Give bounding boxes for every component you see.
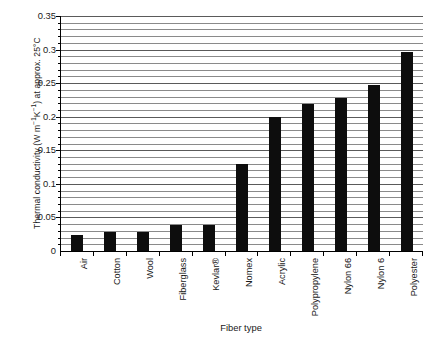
y-tick-mark-major [56,184,61,185]
y-tick-mark-minor [58,177,61,178]
bar [335,98,347,251]
x-category-label: Fiberglass [179,258,188,300]
y-tick-label: 0.35 [26,11,56,20]
y-tick-mark-minor [58,103,61,104]
y-tick-mark-minor [58,36,61,37]
x-tick-mark [290,251,291,256]
bar [203,225,215,251]
x-category-label: Nylon 66 [344,258,353,294]
x-tick-mark [225,251,226,256]
y-tick-mark-minor [58,90,61,91]
y-tick-mark-minor [58,76,61,77]
y-tick-mark-minor [58,110,61,111]
bar [104,232,116,251]
y-tick-mark-minor [58,231,61,232]
x-category-label: Nomex [245,258,254,287]
x-tick-mark [257,251,258,256]
y-tick-mark-minor [58,164,61,165]
x-tick-mark [192,251,193,256]
x-tick-mark [422,251,423,256]
y-tick-mark-major [56,150,61,151]
y-tick-mark-minor [58,244,61,245]
y-tick-label: 0.15 [26,146,56,155]
bar [170,225,182,251]
y-tick-mark-minor [58,157,61,158]
bar [368,85,380,251]
x-category-label: Cotton [113,258,122,285]
x-category-label: Nylon 6 [377,258,386,289]
y-tick-mark-minor [58,238,61,239]
y-tick-mark-minor [58,211,61,212]
bar [401,52,413,251]
y-tick-mark-minor [58,170,61,171]
y-tick-mark-major [56,83,61,84]
x-tick-mark [126,251,127,256]
y-tick-mark-minor [58,224,61,225]
y-tick-mark-minor [58,43,61,44]
x-category-label: Air [80,258,89,269]
y-tick-label: 0.2 [26,112,56,121]
y-tick-mark-minor [58,97,61,98]
y-tick-mark-minor [58,70,61,71]
plot-area [60,16,423,252]
y-tick-label: 0.3 [26,45,56,54]
thermal-conductivity-bar-chart: Thermal conductivity (W m−1K−1) at appro… [0,0,440,343]
x-tick-mark [60,251,61,256]
bar [269,117,281,251]
y-tick-mark-minor [58,23,61,24]
x-tick-mark [93,251,94,256]
bar [302,104,314,251]
y-tick-mark-minor [58,191,61,192]
y-tick-label: 0 [26,246,56,255]
x-category-label: Polypropylene [311,258,320,316]
x-axis-category-labels: AirCottonWoolFiberglassKevlar®NomexAcryl… [60,258,422,320]
y-tick-mark-minor [58,56,61,57]
x-category-label: Acrylic [278,258,287,285]
y-tick-mark-major [56,117,61,118]
y-tick-label: 0.1 [26,179,56,188]
y-axis-tick-labels: 00.050.10.150.20.250.30.35 [26,16,56,251]
bars-layer [61,16,423,251]
x-category-label: Wool [146,258,155,279]
y-tick-mark-minor [58,123,61,124]
y-tick-label: 0.05 [26,213,56,222]
x-axis-title: Fiber type [60,322,422,333]
y-tick-mark-minor [58,137,61,138]
bar [236,164,248,251]
x-tick-mark [323,251,324,256]
y-tick-mark-major [56,16,61,17]
x-tick-mark [356,251,357,256]
x-axis-tick-marks [60,251,422,256]
bar [137,232,149,251]
y-tick-mark-minor [58,29,61,30]
y-tick-label: 0.25 [26,78,56,87]
x-category-label: Kevlar® [212,258,221,291]
y-tick-mark-major [56,217,61,218]
bar [71,235,83,251]
y-tick-mark-major [56,50,61,51]
y-tick-mark-minor [58,197,61,198]
x-category-label: Polyester [410,258,419,296]
x-tick-mark [159,251,160,256]
y-tick-mark-minor [58,204,61,205]
y-tick-mark-minor [58,144,61,145]
y-tick-mark-minor [58,63,61,64]
x-tick-mark [389,251,390,256]
y-tick-mark-minor [58,130,61,131]
